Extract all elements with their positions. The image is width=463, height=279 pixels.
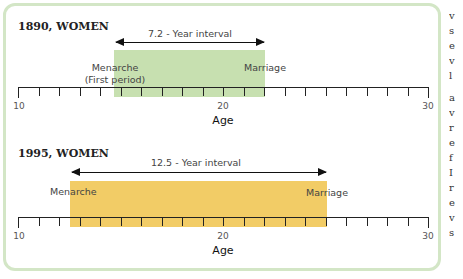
tick-mark: [387, 217, 388, 226]
tick-label-10: 10: [13, 231, 24, 241]
tick-mark: [326, 87, 327, 96]
tick-mark: [162, 217, 163, 226]
tick-mark: [203, 87, 204, 96]
interval-label: 7.2 - Year interval: [148, 28, 232, 39]
clipped-body-text: avrefIrevs: [449, 90, 463, 240]
tick-mark: [367, 87, 368, 96]
tick-mark: [346, 217, 347, 226]
tick-mark: [326, 217, 327, 226]
tick-mark: [408, 217, 409, 226]
event-menarche: Menarche (First period): [80, 62, 150, 86]
tick-mark: [18, 217, 19, 228]
tick-label-30: 30: [422, 231, 433, 241]
clipped-body-text: vsevl: [449, 8, 463, 83]
tick-label-20: 20: [217, 101, 228, 111]
tick-mark: [223, 87, 224, 96]
tick-mark: [39, 87, 40, 96]
event-label: Menarche: [50, 186, 97, 198]
tick-label-20: 20: [217, 231, 228, 241]
panel-title: 1890, WOMEN: [18, 20, 109, 33]
tick-mark: [285, 87, 286, 96]
tick-mark: [305, 217, 306, 226]
tick-mark: [367, 217, 368, 226]
event-menarche: Menarche: [50, 186, 97, 198]
interval-box: [70, 181, 327, 227]
interval-label: 12.5 - Year interval: [151, 157, 241, 168]
double-arrow-icon: [72, 172, 326, 173]
tick-label-30: 30: [422, 101, 433, 111]
tick-mark: [18, 87, 19, 98]
tick-mark: [162, 87, 163, 96]
tick-mark: [203, 217, 204, 226]
panel-1995: 1995, WOMEN 12.5 - Year interval Menarch…: [0, 130, 463, 265]
tick-mark: [428, 87, 429, 98]
tick-mark: [141, 217, 142, 226]
tick-mark: [346, 87, 347, 96]
tick-mark: [59, 217, 60, 226]
event-marriage: Marriage: [244, 62, 286, 74]
tick-mark: [100, 87, 101, 96]
event-sublabel: (First period): [80, 74, 150, 86]
tick-mark: [408, 87, 409, 96]
tick-mark: [141, 87, 142, 96]
tick-mark: [305, 87, 306, 96]
tick-mark: [59, 87, 60, 96]
tick-mark: [244, 87, 245, 96]
tick-mark: [100, 217, 101, 226]
event-label: Menarche: [80, 62, 150, 74]
tick-mark: [182, 217, 183, 226]
tick-mark: [428, 217, 429, 228]
tick-mark: [121, 217, 122, 226]
tick-label-10: 10: [13, 101, 24, 111]
tick-mark: [39, 217, 40, 226]
tick-mark: [387, 87, 388, 96]
tick-mark: [264, 87, 265, 96]
axis-label: Age: [212, 244, 233, 257]
tick-mark: [223, 217, 224, 226]
panel-title: 1995, WOMEN: [18, 147, 109, 160]
tick-mark: [182, 87, 183, 96]
tick-mark: [244, 217, 245, 226]
event-marriage: Marriage: [306, 187, 348, 199]
panel-1890: 1890, WOMEN 7.2 - Year interval Menarche…: [0, 0, 463, 135]
tick-mark: [285, 217, 286, 226]
axis-label: Age: [212, 114, 233, 127]
tick-mark: [80, 87, 81, 96]
tick-mark: [121, 87, 122, 96]
double-arrow-icon: [116, 42, 264, 43]
tick-mark: [80, 217, 81, 226]
tick-mark: [264, 217, 265, 226]
